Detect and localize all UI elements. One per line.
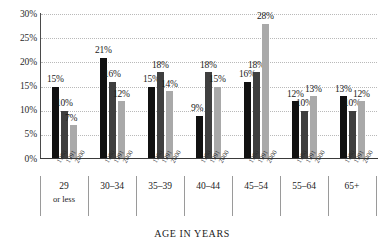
- category-separator: [328, 176, 329, 216]
- bar-group: 12%10%13%: [281, 14, 329, 159]
- plot-area: 15%10%7%21%16%12%15%18%14%9%18%15%16%18%…: [41, 14, 377, 159]
- bar-group: 13%10%12%: [329, 14, 377, 159]
- category-label-line: or less: [40, 193, 88, 206]
- category-separator: [376, 176, 377, 216]
- y-axis-tick-label: 5%: [3, 130, 37, 140]
- bar-value-label: 18%: [152, 61, 169, 71]
- bar-value-label: 13%: [335, 85, 352, 95]
- category-separator: [40, 176, 41, 216]
- bar-value-label: 14%: [161, 80, 178, 90]
- category-label-line: 35–39: [136, 180, 184, 193]
- category-label-line: 30–34: [88, 180, 136, 193]
- bar[interactable]: [253, 72, 260, 159]
- bar-chart: 0%5%10%15%20%25%30% 15%10%7%21%16%12%15%…: [0, 0, 384, 250]
- y-axis-tick-label: 15%: [3, 82, 37, 92]
- y-axis-tick-label: 25%: [3, 34, 37, 44]
- y-axis-tick-label: 30%: [3, 10, 37, 20]
- bar-group: 21%16%12%: [89, 14, 137, 159]
- category-label: 35–39: [136, 180, 184, 193]
- bar-value-label: 21%: [95, 46, 112, 56]
- bar-value-label: 12%: [113, 90, 130, 100]
- category-label: 30–34: [88, 180, 136, 193]
- bar-group: 15%18%14%: [137, 14, 185, 159]
- bar-group: 9%18%15%: [185, 14, 233, 159]
- bar-value-label: 9%: [191, 104, 203, 114]
- bar-value-label: 7%: [65, 114, 77, 124]
- bar-group: 16%18%28%: [233, 14, 281, 159]
- bar-value-label: 10%: [56, 99, 73, 109]
- category-label-line: 40–44: [184, 180, 232, 193]
- y-axis-line: [40, 13, 41, 159]
- category-label-line: 65+: [328, 180, 376, 193]
- bar-value-label: 15%: [209, 75, 226, 85]
- bar[interactable]: [205, 72, 212, 159]
- category-label: 29or less: [40, 180, 88, 205]
- category-separator: [184, 176, 185, 216]
- y-axis-tick-labels: 0%5%10%15%20%25%30%: [0, 0, 37, 250]
- category-label-line: 55–64: [280, 180, 328, 193]
- category-separator: [136, 176, 137, 216]
- bar[interactable]: [148, 87, 155, 160]
- x-axis-title: AGE IN YEARS: [0, 228, 384, 239]
- bar-value-label: 12%: [353, 90, 370, 100]
- bar-value-label: 13%: [305, 85, 322, 95]
- category-label-line: 45–54: [232, 180, 280, 193]
- bar[interactable]: [292, 101, 299, 159]
- y-axis-tick-label: 0%: [3, 155, 37, 165]
- category-label: 65+: [328, 180, 376, 193]
- category-label: 45–54: [232, 180, 280, 193]
- y-axis-tick-label: 10%: [3, 106, 37, 116]
- category-band: 29or less30–3435–3940–4445–5455–6465+: [40, 180, 378, 218]
- bar-value-label: 18%: [200, 61, 217, 71]
- bar-value-label: 16%: [104, 70, 121, 80]
- bar-group: 15%10%7%: [41, 14, 89, 159]
- bar-value-label: 28%: [257, 12, 274, 22]
- category-label: 40–44: [184, 180, 232, 193]
- category-label-line: 29: [40, 180, 88, 193]
- bar[interactable]: [262, 24, 269, 159]
- bar[interactable]: [244, 82, 251, 159]
- category-separator: [232, 176, 233, 216]
- category-separator: [280, 176, 281, 216]
- y-axis-tick-label: 20%: [3, 58, 37, 68]
- bar-value-label: 15%: [47, 75, 64, 85]
- bar[interactable]: [196, 116, 203, 160]
- category-separator: [88, 176, 89, 216]
- category-label: 55–64: [280, 180, 328, 193]
